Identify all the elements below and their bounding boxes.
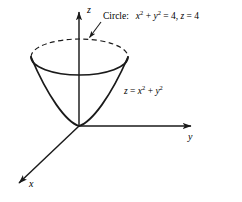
circle-z-value: = 4 (184, 11, 199, 21)
circle-leader-line (90, 22, 102, 38)
paraboloid-figure: z y x Circle:x2 + y2 = 4, z = 4 z = x2 +… (0, 0, 242, 202)
x-axis-label: x (29, 179, 33, 189)
paraboloid-term2-exponent: 2 (160, 84, 163, 91)
paraboloid-plus-operator: + (145, 86, 155, 96)
paraboloid-equals: = (128, 86, 138, 96)
z-axis-label: z (87, 5, 91, 15)
circle-annotation-title: Circle: (103, 11, 129, 21)
x-axis (19, 126, 79, 183)
diagram-canvas (0, 0, 242, 202)
circle-equals-four: = 4 (161, 11, 176, 21)
y-axis-label: y (188, 132, 192, 142)
paraboloid-equation-label: z = x2 + y2 (124, 87, 163, 97)
circle-plus-operator: + (143, 11, 153, 21)
circle-annotation-label: Circle:x2 + y2 = 4, z = 4 (103, 12, 199, 22)
